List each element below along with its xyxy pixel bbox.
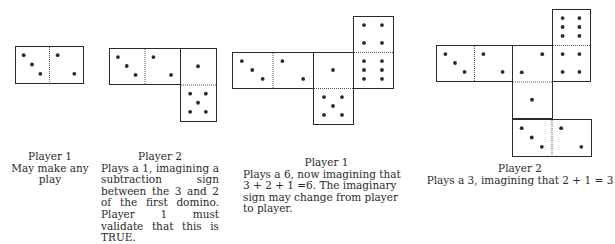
caption-player: Player 2 [101, 151, 219, 163]
pip [340, 95, 344, 99]
caption-text: May make any play [0, 163, 100, 186]
pip [520, 126, 524, 130]
caption-panel-1: Player 1 May make any play [0, 151, 100, 186]
domino [314, 53, 354, 125]
pip [444, 52, 448, 56]
caption-text: Plays a 3, imagining that 2 + 1 = 3 [425, 175, 615, 187]
pip [561, 34, 565, 38]
pip [362, 77, 366, 81]
pip [520, 70, 524, 74]
caption-text: Plays a 1, imagining a subtraction sign … [101, 163, 219, 244]
pip [561, 25, 565, 29]
pip [561, 16, 565, 20]
pip [380, 68, 384, 72]
pip [152, 55, 156, 59]
pip [559, 126, 563, 130]
caption-panel-4: Player 2 Plays a 3, imagining that 2 + 1… [425, 163, 615, 186]
pip [196, 64, 200, 68]
pip [482, 52, 486, 56]
caption-text: Plays a 6, now imagining that 3 + 2 + 1 … [243, 169, 410, 215]
pip [38, 72, 42, 76]
pip [261, 77, 265, 81]
pip [380, 41, 384, 45]
pip [331, 104, 335, 108]
domino [110, 49, 181, 85]
pip [380, 77, 384, 81]
caption-panel-3: Player 1 Plays a 6, now imagining that 3… [243, 157, 410, 215]
domino [513, 46, 553, 119]
domino [437, 46, 513, 82]
pip [204, 110, 208, 114]
domino [553, 10, 591, 82]
pip [578, 52, 582, 56]
caption-panel-2: Player 2 Plays a 1, imagining a subtract… [101, 151, 219, 244]
pip [322, 95, 326, 99]
domino [354, 17, 394, 89]
pip [362, 59, 366, 63]
pip [125, 64, 129, 68]
pip [331, 68, 335, 72]
pip [188, 110, 192, 114]
pip [56, 53, 60, 57]
pip [561, 52, 565, 56]
caption-player: Player 1 [243, 157, 410, 169]
pip [362, 68, 366, 72]
pip [72, 72, 76, 76]
caption-player: Player 1 [0, 151, 100, 163]
domino [513, 120, 592, 157]
domino [181, 49, 217, 122]
pip [362, 41, 366, 45]
pip [362, 23, 366, 27]
pip [540, 52, 544, 56]
pip [530, 136, 534, 140]
pip [453, 61, 457, 65]
pip [380, 23, 384, 27]
panel-2-dominoes [110, 49, 217, 122]
pip [30, 63, 34, 67]
panel-4-dominoes [437, 10, 592, 157]
pip [116, 55, 120, 59]
pip [280, 59, 284, 63]
pip [561, 70, 565, 74]
pip [530, 98, 534, 102]
pip [578, 25, 582, 29]
pip [301, 77, 305, 81]
pip [578, 16, 582, 20]
pip [196, 101, 200, 105]
pip [501, 70, 505, 74]
pip [204, 92, 208, 96]
domino [16, 47, 84, 84]
panel-3-dominoes [233, 17, 394, 125]
pip [240, 59, 244, 63]
domino-layer [16, 10, 592, 157]
pip [169, 73, 173, 77]
pip [322, 113, 326, 117]
pip [22, 53, 26, 57]
panel-1-dominoes [16, 47, 84, 84]
pip [188, 92, 192, 96]
pip [540, 145, 544, 149]
pip [578, 70, 582, 74]
pip [380, 59, 384, 63]
pip [579, 145, 583, 149]
pip [578, 34, 582, 38]
caption-player: Player 2 [425, 163, 615, 175]
domino [233, 53, 314, 89]
pip [463, 70, 467, 74]
pip [340, 113, 344, 117]
pip [250, 68, 254, 72]
pip [134, 73, 138, 77]
